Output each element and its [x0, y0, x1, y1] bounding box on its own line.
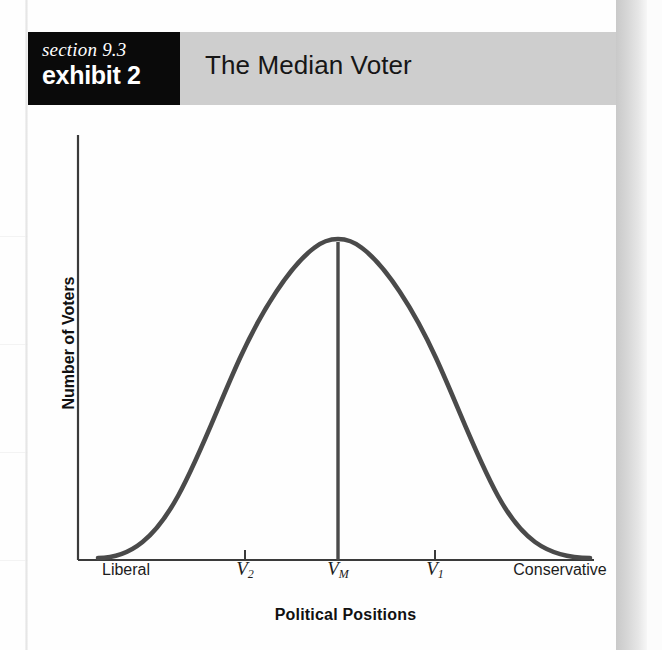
exhibit-section-label: section 9.3 — [42, 38, 180, 61]
chart-figure: Number of Voters Liberal V2 VM V1 Conser… — [28, 106, 616, 650]
exhibit-number-label: exhibit 2 — [42, 61, 180, 90]
y-axis-title: Number of Voters — [60, 263, 78, 423]
voter-distribution-curve — [98, 239, 590, 558]
x-tick-label-vm-base: V — [327, 558, 339, 579]
x-tick-label-v2: V2 — [236, 558, 254, 582]
page-edge-shadow — [616, 0, 647, 650]
x-tick-label-conservative: Conservative — [513, 561, 606, 579]
x-tick-label-v2-sub: 2 — [248, 567, 254, 581]
page-outer-margin — [647, 0, 662, 650]
x-tick-label-vm: VM — [327, 558, 349, 582]
chart-plot-svg — [28, 106, 616, 576]
x-tick-label-v1-sub: 1 — [438, 567, 444, 581]
x-tick-label-liberal: Liberal — [102, 561, 150, 579]
x-tick-label-v1-base: V — [426, 558, 438, 579]
exhibit-title: The Median Voter — [205, 50, 412, 81]
x-tick-label-v1: V1 — [426, 558, 444, 582]
exhibit-badge: section 9.3 exhibit 2 — [28, 32, 180, 105]
x-tick-label-vm-sub: M — [339, 567, 349, 581]
x-tick-label-v2-base: V — [236, 558, 248, 579]
x-axis-title: Political Positions — [78, 606, 613, 624]
page-background: section 9.3 exhibit 2 The Median Voter N… — [0, 0, 662, 650]
